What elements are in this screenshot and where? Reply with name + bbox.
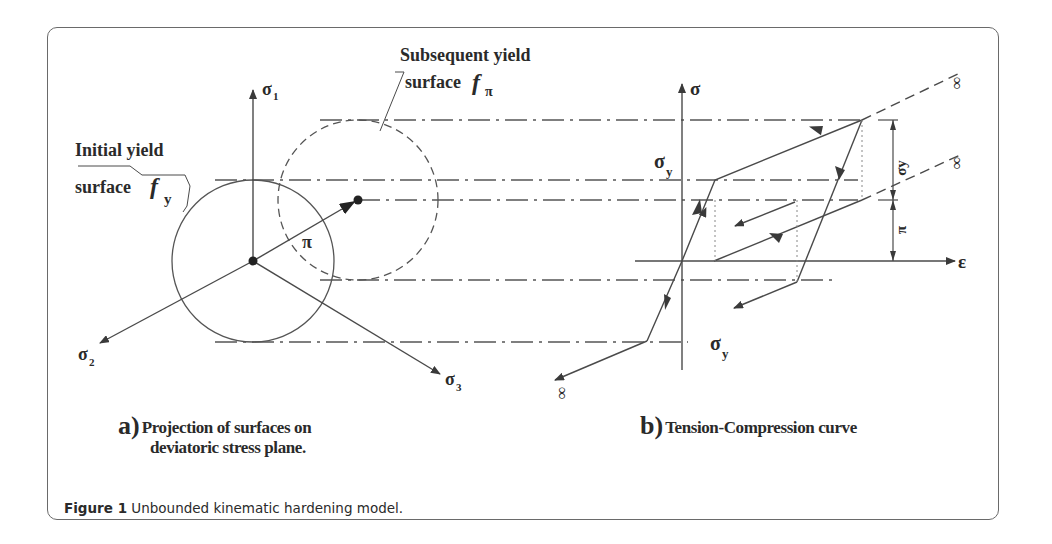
figure-caption-text: Unbounded kinematic hardening model. [127,500,403,516]
origin-dot [249,257,258,266]
panel-a-deviatoric-plane [78,72,862,374]
initial-yield-symbol: f [150,173,160,199]
infinity-mid-label: ∞ [947,157,966,169]
extension-upper [862,73,960,120]
subsequent-yield-symbol: f [472,69,482,95]
panel-a-caption: a)Projection of surfaces on deviatoric s… [118,412,311,457]
yield-negative-label: σ [710,332,721,354]
sigma1-subscript: 1 [273,90,279,102]
sigma3-axis [253,261,440,374]
sigma2-axis [100,261,253,343]
unloading-path [797,120,862,282]
backstress-label: π [302,232,312,252]
sigma1-label: σ [262,79,272,99]
yield-positive-subscript: y [666,164,673,179]
panel-b-labels: σ ε σ y σ y σy π ∞ ∞ ∞ [552,77,966,399]
panel-a-caption-line1: Projection of surfaces on [142,418,312,437]
compression-tail [555,341,647,380]
subsequent-yield-label-line1: Subsequent yield [400,45,531,65]
loading-path [647,120,862,341]
panel-b-caption: b)Tension-Compression curve [640,412,857,439]
subsequent-yield-label-line2: surface [405,72,461,92]
panel-a-caption-line2: deviatoric stress plane. [150,438,306,457]
panel-a-labels: Initial yield surface f y Subsequent yie… [75,45,531,393]
yield-positive-label: σ [654,150,665,172]
sigma2-label: σ [78,344,88,364]
reverse-path [734,282,797,308]
extension-lower [862,155,960,200]
panel-b-caption-line1: Tension-Compression curve [665,418,857,437]
reload-path [714,200,862,261]
initial-yield-subscript: y [164,191,172,207]
small-reverse [735,202,795,226]
dim-pi-label: π [893,225,909,234]
infinity-top-label: ∞ [947,77,966,89]
initial-yield-label-line1: Initial yield [75,140,164,160]
figure-diagram: Initial yield surface f y Subsequent yie… [0,0,1052,544]
subsequent-yield-subscript: π [485,84,493,99]
panel-a-sublabel: a) [118,411,140,440]
infinity-bottom-label: ∞ [552,387,571,399]
initial-yield-label-line2: surface [75,177,131,197]
figure-number: Figure 1 [64,500,127,516]
figure-caption: Figure 1 Unbounded kinematic hardening m… [64,500,403,516]
subsequent-leader [380,72,404,131]
sigma2-subscript: 2 [89,356,95,368]
center-dot [354,196,363,205]
yield-negative-subscript: y [722,346,729,361]
dotted-guides [715,120,862,282]
epsilon-axis-label: ε [958,251,966,272]
sigma3-label: σ [445,369,455,389]
reference-lines [215,120,862,342]
sigma3-subscript: 3 [456,381,462,393]
dim-sigma-y-label: σy [893,160,909,176]
panel-b-sublabel: b) [640,411,663,440]
sigma-axis-label: σ [690,78,701,99]
